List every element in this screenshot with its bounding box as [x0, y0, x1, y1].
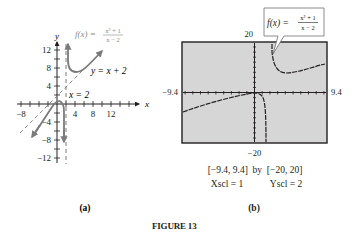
curve-left-branch-left-arrow	[32, 125, 40, 137]
oblique-asymptote-label: y = x + 2	[90, 66, 127, 76]
function-label-a: f(x) = x² + 1 x − 2	[75, 27, 123, 43]
panel-a-label: (a)	[79, 203, 90, 214]
figure-canvas: −8 4 8 12 12 8 4 −4 −8 −12 x y f(x) = x²…	[0, 0, 355, 234]
callout-denominator: x − 2	[301, 24, 314, 31]
x-axis-label: x	[144, 99, 149, 109]
denominator: x − 2	[106, 36, 119, 43]
xmin-label: −9.4	[163, 87, 179, 97]
x-tick-label: 4	[73, 109, 78, 119]
figure-caption: FIGURE 13	[152, 221, 197, 231]
y-tick-label: 8	[47, 63, 52, 73]
y-tick-label: −12	[37, 153, 51, 163]
x-tick-label: 12	[107, 109, 116, 119]
y-tick-label: −8	[41, 135, 51, 145]
yscl-label: Yscl = 2	[270, 179, 303, 189]
callout-numerator: x² + 1	[300, 14, 315, 21]
xmax-label: 9.4	[331, 87, 342, 97]
ymax-label: 20	[245, 29, 254, 39]
vertical-asymptote-label: x = 2	[68, 90, 89, 100]
function-name: f(x) =	[75, 29, 96, 39]
numerator: x² + 1	[105, 27, 120, 34]
y-tick-label: 12	[42, 45, 51, 55]
callout-function-name: f(x) =	[267, 18, 289, 29]
x-tick-label: −8	[16, 109, 26, 119]
panel-a: −8 4 8 12 12 8 4 −4 −8 −12 x y f(x) = x²…	[16, 27, 149, 214]
panel-b-label: (b)	[248, 203, 260, 214]
x-tick-label: 8	[91, 109, 96, 119]
ymin-label: −20	[248, 148, 261, 158]
window-settings: [−9.4, 9.4] by [−20, 20]	[208, 165, 303, 175]
y-tick-label: 4	[47, 81, 52, 91]
y-axis-label: y	[54, 31, 59, 41]
panel-b: −9.4 9.4 20 −20 f(x) = x² + 1 x − 2 [−9.…	[163, 8, 343, 214]
xscl-label: Xscl = 1	[211, 179, 244, 189]
